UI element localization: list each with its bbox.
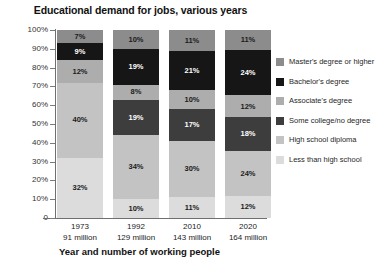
bar-segment[interactable]: 10% bbox=[113, 199, 159, 218]
x-axis-year: 2020 bbox=[215, 222, 281, 233]
y-axis-tick-label: 20% bbox=[2, 176, 48, 184]
y-axis-tick-label: 90% bbox=[2, 45, 48, 53]
y-axis-line bbox=[55, 29, 56, 219]
bar-segment[interactable]: 12% bbox=[225, 196, 271, 218]
legend-label: Less than high school bbox=[289, 156, 362, 165]
bar-segment[interactable]: 18% bbox=[225, 117, 271, 151]
plot-area: 7%9%12%40%32%10%19%8%19%34%10%11%21%10%1… bbox=[57, 30, 258, 218]
y-axis-tick-label: 40% bbox=[2, 139, 48, 147]
bar-segment[interactable]: 11% bbox=[169, 30, 215, 51]
y-axis-labels: 010%20%30%40%50%60%70%80%90%100% bbox=[0, 0, 48, 268]
bar-segment[interactable]: 34% bbox=[113, 135, 159, 199]
legend-swatch-icon bbox=[276, 58, 284, 66]
legend-item[interactable]: Bachelor's degree bbox=[276, 78, 388, 87]
bar-segment[interactable]: 21% bbox=[169, 51, 215, 90]
bar-segment[interactable]: 12% bbox=[225, 95, 271, 117]
bar-segment[interactable]: 8% bbox=[113, 85, 159, 100]
y-axis-tick-label: 100% bbox=[2, 26, 48, 34]
legend-item[interactable]: Less than high school bbox=[276, 156, 388, 165]
legend-swatch-icon bbox=[276, 156, 284, 164]
y-axis-tick bbox=[50, 105, 55, 106]
bar-segment[interactable]: 30% bbox=[169, 141, 215, 197]
chart-legend: Master's degree or higherBachelor's degr… bbox=[276, 58, 388, 175]
x-axis-count: 164 million bbox=[215, 233, 281, 244]
bar-1973[interactable]: 7%9%12%40%32% bbox=[57, 30, 103, 218]
bar-segment[interactable]: 10% bbox=[113, 30, 159, 49]
bar-segment[interactable]: 24% bbox=[225, 50, 271, 95]
legend-item[interactable]: Associate's degree bbox=[276, 97, 388, 106]
legend-label: Associate's degree bbox=[289, 97, 352, 106]
y-axis-tick-label: 0 bbox=[2, 214, 48, 222]
bar-1992[interactable]: 10%19%8%19%34%10% bbox=[113, 30, 159, 218]
y-axis-tick bbox=[50, 124, 55, 125]
x-axis-line bbox=[43, 218, 267, 219]
legend-swatch-icon bbox=[276, 117, 284, 125]
bar-segment[interactable]: 10% bbox=[169, 90, 215, 109]
bar-segment[interactable]: 40% bbox=[57, 83, 103, 158]
bar-segment[interactable]: 12% bbox=[57, 60, 103, 83]
y-axis-tick-label: 50% bbox=[2, 120, 48, 128]
y-axis-tick bbox=[50, 143, 55, 144]
y-axis-tick bbox=[50, 180, 55, 181]
bar-segment[interactable]: 19% bbox=[113, 49, 159, 85]
legend-label: Bachelor's degree bbox=[289, 78, 349, 87]
chart-container: Educational demand for jobs, various yea… bbox=[0, 0, 391, 268]
bar-segment[interactable]: 32% bbox=[57, 158, 103, 218]
legend-item[interactable]: Some college/no degree bbox=[276, 117, 388, 126]
bar-segment[interactable]: 19% bbox=[113, 100, 159, 136]
y-axis-tick bbox=[50, 199, 55, 200]
legend-item[interactable]: High school diploma bbox=[276, 136, 388, 145]
y-axis-tick bbox=[50, 49, 55, 50]
legend-item[interactable]: Master's degree or higher bbox=[276, 58, 388, 67]
bar-segment[interactable]: 17% bbox=[169, 109, 215, 141]
legend-label: High school diploma bbox=[289, 136, 357, 145]
bar-2020[interactable]: 11%24%12%18%24%12% bbox=[225, 30, 271, 218]
legend-swatch-icon bbox=[276, 136, 284, 144]
bar-segment[interactable]: 11% bbox=[169, 197, 215, 218]
y-axis-tick-label: 30% bbox=[2, 158, 48, 166]
y-axis-tick bbox=[50, 30, 55, 31]
y-axis-tick bbox=[50, 162, 55, 163]
bar-segment[interactable]: 7% bbox=[57, 30, 103, 43]
legend-label: Master's degree or higher bbox=[289, 58, 374, 67]
bar-segment[interactable]: 11% bbox=[225, 30, 271, 50]
y-axis-tick bbox=[50, 218, 55, 219]
y-axis-tick bbox=[50, 68, 55, 69]
y-axis-tick bbox=[50, 86, 55, 87]
y-axis-tick-label: 10% bbox=[2, 195, 48, 203]
bar-segment[interactable]: 9% bbox=[57, 43, 103, 60]
y-axis-tick-label: 60% bbox=[2, 101, 48, 109]
y-axis-tick-label: 80% bbox=[2, 64, 48, 72]
x-axis-caption: Year and number of working people bbox=[0, 246, 279, 257]
legend-swatch-icon bbox=[276, 78, 284, 86]
legend-label: Some college/no degree bbox=[289, 117, 370, 126]
x-axis-group-label: 2020164 million bbox=[215, 222, 281, 243]
y-axis-tick-label: 70% bbox=[2, 82, 48, 90]
bar-segment[interactable]: 24% bbox=[225, 151, 271, 196]
legend-swatch-icon bbox=[276, 97, 284, 105]
bar-2010[interactable]: 11%21%10%17%30%11% bbox=[169, 30, 215, 218]
